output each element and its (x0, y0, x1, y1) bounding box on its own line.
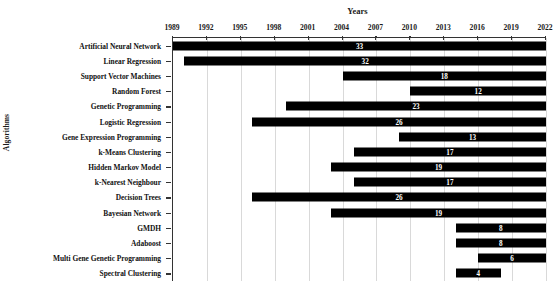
bar-value-label: 18 (441, 73, 448, 81)
x-tick-label: 2001 (300, 23, 315, 32)
gridline (241, 38, 242, 281)
bar-value-label: 8 (499, 225, 503, 233)
y-category-label: Genetic Programming (0, 102, 161, 111)
gridline (207, 38, 208, 281)
bar-value-label: 8 (499, 240, 503, 248)
y-category-label: Artificial Neural Network (0, 41, 161, 50)
bar-value-label: 12 (475, 88, 482, 96)
bar-value-label: 17 (446, 149, 453, 157)
bar-value-label: 33 (356, 43, 363, 51)
bar-value-label: 19 (435, 164, 442, 172)
y-category-label: Gene Expression Programming (0, 132, 161, 141)
y-category-label: Decision Trees (0, 193, 161, 202)
y-category-label: Random Forest (0, 87, 161, 96)
gridline (309, 38, 310, 281)
bar-value-label: 17 (446, 179, 453, 187)
gridline (275, 38, 276, 281)
y-axis-category-labels: Artificial Neural NetworkLinear Regressi… (0, 38, 170, 281)
y-category-label: Spectral Clustering (0, 269, 161, 278)
y-category-label: Multi Gene Genetic Programming (0, 254, 161, 263)
bar-value-label: 4 (476, 270, 480, 278)
bar-value-label: 19 (435, 210, 442, 218)
y-category-label: Adaboost (0, 239, 161, 248)
x-tick-label: 2022 (537, 23, 552, 32)
x-tick-label: 1998 (266, 23, 281, 32)
x-tick-label: 2019 (503, 23, 518, 32)
y-category-label: Hidden Markov Model (0, 163, 161, 172)
y-category-label: k-Means Clustering (0, 147, 161, 156)
gantt-chart: Years Algorithms 19891992199519982001200… (0, 0, 555, 288)
bar-value-label: 6 (510, 255, 514, 263)
x-tick-label: 2010 (402, 23, 417, 32)
x-tick-label: 1992 (198, 23, 213, 32)
x-tick-label: 2013 (436, 23, 451, 32)
bar-value-label: 32 (362, 58, 369, 66)
x-axis-tick-labels: 1989199219951998200120042007201020132016… (172, 23, 545, 35)
y-category-label: Logistic Regression (0, 117, 161, 126)
y-category-label: k-Nearest Neighbour (0, 178, 161, 187)
gridline (546, 38, 547, 281)
x-tick-label: 1989 (164, 23, 179, 32)
bar-value-label: 26 (395, 119, 402, 127)
y-category-label: Linear Regression (0, 56, 161, 65)
bar-value-label: 23 (412, 103, 419, 111)
x-tick-label: 2007 (368, 23, 383, 32)
y-category-label: GMDH (0, 223, 161, 232)
plot-area: 3332181223261317191726198864 (172, 38, 545, 281)
bar-value-label: 13 (469, 134, 476, 142)
y-category-label: Support Vector Machines (0, 71, 161, 80)
x-tick-label: 2016 (470, 23, 485, 32)
x-tick-label: 2004 (334, 23, 349, 32)
bar-value-label: 26 (395, 194, 402, 202)
x-tick-label: 1995 (232, 23, 247, 32)
y-category-label: Bayesian Network (0, 208, 161, 217)
x-axis-title: Years (165, 6, 550, 16)
